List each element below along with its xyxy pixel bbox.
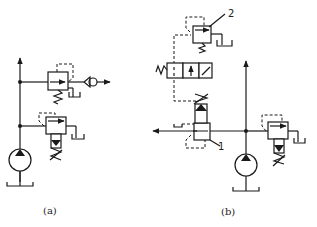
- junction-dot: [244, 129, 248, 133]
- pilot-line: [174, 35, 191, 64]
- pilot-relief-valve-1-icon: [153, 94, 210, 148]
- caption-a: (a): [43, 205, 57, 216]
- pump-icon: [9, 149, 31, 186]
- callout-2: 2: [228, 8, 234, 19]
- caption-b: (b): [221, 206, 235, 217]
- pilot-line: [174, 76, 196, 101]
- check-valve-icon: [84, 77, 97, 87]
- circuit-a: (a): [7, 58, 110, 216]
- callout-1: 1: [218, 141, 224, 152]
- pump-icon: [235, 154, 257, 191]
- hydraulic-diagram: (a) 1: [0, 0, 317, 227]
- relief-valve-adjustable-icon: [262, 115, 305, 166]
- solenoid-directional-valve-icon: [156, 63, 212, 78]
- circuit-b: 1 2: [153, 8, 305, 217]
- callout-line-2: [209, 14, 225, 27]
- remote-relief-valve-2-icon: [186, 17, 232, 53]
- relief-valve-spring-icon: [20, 64, 80, 104]
- relief-valve-adjustable-icon: [20, 113, 84, 160]
